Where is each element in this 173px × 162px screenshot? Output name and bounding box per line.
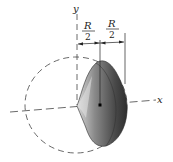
y-axis-label: y (72, 3, 79, 14)
svg-text:R: R (83, 20, 92, 31)
svg-text:2: 2 (85, 32, 91, 42)
svg-text:2: 2 (109, 30, 115, 40)
dimension-label-right: R 2 (106, 18, 119, 40)
centroid-marker (99, 104, 102, 107)
arrowhead-mid-left (95, 42, 100, 45)
x-axis-label: x (157, 94, 163, 105)
arrowhead-right (119, 41, 124, 44)
arrowhead-left (78, 42, 83, 45)
dimension-label-left: R 2 (82, 20, 95, 42)
diagram-canvas: x y R 2 R 2 (0, 0, 173, 162)
svg-text:R: R (107, 18, 116, 29)
arrowhead-mid-right (101, 41, 106, 44)
